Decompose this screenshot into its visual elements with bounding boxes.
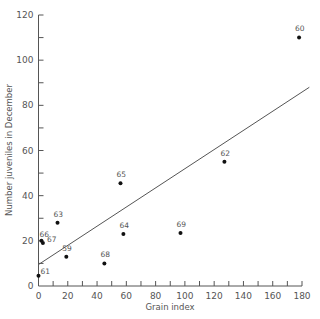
- y-tick-label: 0: [28, 281, 34, 291]
- data-point: [118, 181, 122, 185]
- data-point: [178, 231, 182, 235]
- x-tick-label: 120: [206, 291, 223, 301]
- y-tick-label: 80: [22, 100, 34, 110]
- data-point: [56, 221, 60, 225]
- x-tick-label: 160: [264, 291, 281, 301]
- point-label: 63: [54, 210, 64, 219]
- point-label: 60: [295, 24, 305, 33]
- x-tick-label: 180: [293, 291, 310, 301]
- y-tick-label: 100: [16, 55, 33, 65]
- data-point: [297, 36, 301, 40]
- x-tick-label: 20: [62, 291, 74, 301]
- regression-line: [39, 87, 310, 264]
- x-tick-label: 40: [91, 291, 103, 301]
- data-point: [41, 241, 45, 245]
- x-tick-label: 0: [36, 291, 42, 301]
- y-tick-label: 120: [16, 10, 33, 20]
- y-tick-label: 40: [22, 191, 34, 201]
- point-label: 65: [116, 170, 126, 179]
- point-label: 64: [119, 221, 129, 230]
- point-label: 62: [220, 149, 230, 158]
- y-tick-label: 60: [22, 146, 34, 156]
- data-point: [64, 255, 68, 259]
- scatter-chart: 020406080100120140160180020406080100120 …: [0, 0, 320, 319]
- y-axis-title: Number juveniles in December: [4, 84, 14, 216]
- axes: 020406080100120140160180020406080100120: [16, 10, 311, 301]
- point-label: 67: [47, 235, 57, 244]
- data-point: [102, 261, 106, 265]
- x-tick-label: 80: [150, 291, 162, 301]
- point-label: 61: [41, 267, 51, 276]
- point-label: 59: [62, 244, 72, 253]
- data-point: [222, 160, 226, 164]
- x-tick-label: 60: [121, 291, 133, 301]
- point-label: 69: [176, 220, 186, 229]
- y-tick-label: 20: [22, 236, 34, 246]
- x-tick-label: 140: [235, 291, 252, 301]
- x-tick-label: 100: [176, 291, 193, 301]
- data-point: [121, 232, 125, 236]
- x-axis-title: Grain index: [146, 302, 195, 312]
- point-label: 68: [100, 250, 110, 259]
